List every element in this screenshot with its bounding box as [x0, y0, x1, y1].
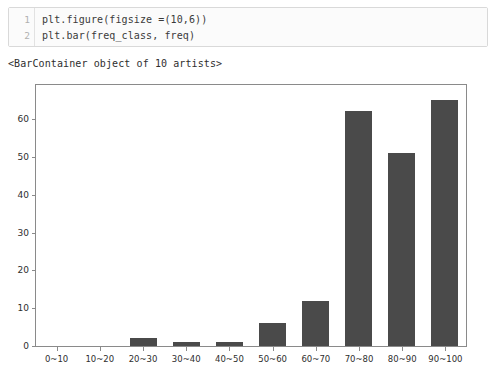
bar-slot [79, 85, 122, 346]
x-tick-label: 90~100 [424, 354, 467, 364]
x-tick-label: 30~40 [165, 354, 208, 364]
x-tick-label: 10~20 [78, 354, 121, 364]
y-tick-label: 0 [23, 341, 29, 351]
x-tick-mark [229, 347, 230, 351]
matplotlib-figure: 0 10 20 30 40 50 [0, 78, 496, 378]
bar[interactable] [259, 323, 287, 346]
line-number: 1 [9, 12, 30, 28]
x-tick-slot: 30~40 [165, 347, 208, 375]
y-tick-label: 30 [18, 228, 29, 238]
bar-slot [294, 85, 337, 346]
x-tick-label: 20~30 [121, 354, 164, 364]
code-line-number-gutter: 1 2 [9, 8, 35, 46]
y-tick-label: 60 [18, 114, 29, 124]
y-tick-label: 50 [18, 152, 29, 162]
plot-axes: 0 10 20 30 40 50 [35, 84, 467, 347]
x-tick-slot: 0~10 [35, 347, 78, 375]
code-editor[interactable]: plt.figure(figsize =(10,6)) plt.bar(freq… [35, 8, 487, 46]
bar[interactable] [216, 342, 244, 346]
bar[interactable] [431, 100, 459, 346]
x-axis-ticks: 0~10 10~20 20~30 30~40 40~50 50~60 60~70… [35, 347, 467, 375]
bar-series [36, 85, 466, 346]
x-tick-mark [445, 347, 446, 351]
x-tick-mark [402, 347, 403, 351]
line-number: 2 [9, 28, 30, 44]
x-tick-mark [273, 347, 274, 351]
x-tick-mark [359, 347, 360, 351]
bar-slot [36, 85, 79, 346]
bar[interactable] [388, 153, 416, 346]
code-cell[interactable]: 1 2 plt.figure(figsize =(10,6)) plt.bar(… [8, 7, 488, 47]
code-line: plt.figure(figsize =(10,6)) [42, 12, 487, 28]
bar-slot [165, 85, 208, 346]
y-tick-label: 40 [18, 190, 29, 200]
bar-slot [251, 85, 294, 346]
x-tick-slot: 10~20 [78, 347, 121, 375]
x-tick-slot: 60~70 [294, 347, 337, 375]
cell-text-output: <BarContainer object of 10 artists> [8, 57, 488, 71]
bar[interactable] [173, 342, 201, 346]
x-tick-slot: 70~80 [337, 347, 380, 375]
x-tick-label: 80~90 [381, 354, 424, 364]
x-tick-slot: 20~30 [121, 347, 164, 375]
x-tick-mark [100, 347, 101, 351]
x-tick-label: 70~80 [337, 354, 380, 364]
x-tick-slot: 80~90 [381, 347, 424, 375]
bar[interactable] [345, 111, 373, 346]
y-tick-label: 10 [18, 303, 29, 313]
bar[interactable] [302, 301, 330, 346]
bar[interactable] [130, 338, 158, 346]
x-tick-mark [316, 347, 317, 351]
bar-slot [337, 85, 380, 346]
bar-slot [122, 85, 165, 346]
x-tick-slot: 50~60 [251, 347, 294, 375]
bar-slot [423, 85, 466, 346]
x-tick-slot: 40~50 [208, 347, 251, 375]
code-line: plt.bar(freq_class, freq) [42, 28, 487, 44]
notebook-root: 1 2 plt.figure(figsize =(10,6)) plt.bar(… [0, 0, 496, 385]
x-tick-slot: 90~100 [424, 347, 467, 375]
x-tick-mark [186, 347, 187, 351]
bar-slot [380, 85, 423, 346]
x-tick-label: 40~50 [208, 354, 251, 364]
x-tick-mark [143, 347, 144, 351]
x-tick-mark [57, 347, 58, 351]
x-tick-label: 60~70 [294, 354, 337, 364]
x-tick-label: 0~10 [35, 354, 78, 364]
bar-slot [208, 85, 251, 346]
y-tick-label: 20 [18, 265, 29, 275]
x-tick-label: 50~60 [251, 354, 294, 364]
